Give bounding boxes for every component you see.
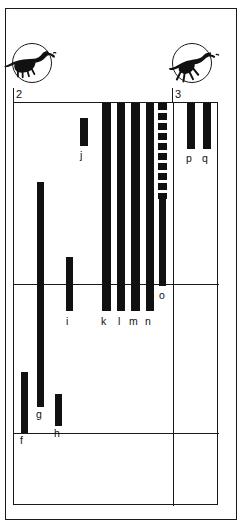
range-bar-o <box>159 199 166 286</box>
stage-tick-2 <box>13 88 14 102</box>
range-bar-j <box>80 118 88 146</box>
stage-boundary-line <box>173 103 174 506</box>
range-chart-box: f g h i j k l m n o p q <box>13 102 218 505</box>
range-bar-f <box>21 372 28 433</box>
stage-label-2: 2 <box>16 89 22 100</box>
range-label-l: l <box>118 316 120 327</box>
stage-tick-3 <box>172 88 173 102</box>
range-label-g: g <box>36 409 42 420</box>
sauropod-dinosaur-icon <box>10 42 56 88</box>
range-bar-p <box>187 103 195 149</box>
range-label-n: n <box>145 316 151 327</box>
range-label-m: m <box>129 316 138 327</box>
range-bar-o-uncertain <box>158 103 167 199</box>
range-label-q: q <box>202 153 208 164</box>
range-bar-l <box>117 103 125 311</box>
sauropod-glyph <box>4 44 62 84</box>
theropod-dinosaur-icon <box>170 42 216 88</box>
range-label-i: i <box>66 316 68 327</box>
range-bar-m <box>131 103 140 311</box>
theropod-glyph <box>164 44 222 84</box>
figure-canvas: 2 3 f g h i j k l m n o p q <box>0 0 246 530</box>
range-bar-i <box>66 257 73 311</box>
range-label-j: j <box>80 150 82 161</box>
range-bar-g <box>37 182 44 407</box>
range-bar-h <box>55 394 62 426</box>
range-bar-q <box>203 103 211 149</box>
range-label-k: k <box>101 316 106 327</box>
zone-divider-lower <box>14 433 219 434</box>
range-label-p: p <box>186 153 192 164</box>
icon-band <box>0 0 246 100</box>
range-bar-k <box>102 103 111 311</box>
range-label-h: h <box>54 428 60 439</box>
stage-label-3: 3 <box>175 89 181 100</box>
range-label-f: f <box>20 435 23 446</box>
range-bar-n <box>146 103 154 311</box>
range-label-o: o <box>159 290 165 301</box>
